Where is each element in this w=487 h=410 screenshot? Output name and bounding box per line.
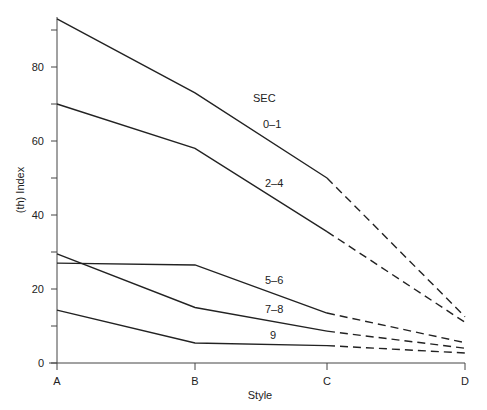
series-label: 9 [270,329,276,341]
line-chart: 020406080ABCD SEC0–12–45–67–89 Style (th… [0,0,487,410]
series-lines [57,19,465,353]
x-tick-label: D [461,375,469,387]
y-tick-label: 60 [32,135,44,147]
series-line-projected [327,178,465,317]
series-label: 7–8 [265,303,283,315]
series-line-solid [57,19,327,178]
x-tick-label: A [53,375,61,387]
y-tick-label: 40 [32,209,44,221]
series-label: 0–1 [263,118,281,130]
series-line-projected [327,346,465,353]
axes: 020406080ABCD [32,17,469,387]
x-axis-label: Style [248,389,272,401]
series-labels: SEC0–12–45–67–89 [253,92,283,341]
series-label: 5–6 [265,274,283,286]
series-line-projected [327,313,465,343]
y-tick-label: 0 [38,357,44,369]
series-label: 2–4 [265,177,283,189]
y-tick-label: 20 [32,283,44,295]
series-line-solid [57,104,327,232]
series-line-solid [57,310,327,346]
chart-container: 020406080ABCD SEC0–12–45–67–89 Style (th… [0,0,487,410]
series-line-projected [327,331,465,348]
series-line-projected [327,232,465,323]
y-tick-label: 80 [32,61,44,73]
series-line-solid [57,263,327,313]
y-axis-label: (th) Index [14,166,26,213]
legend-title: SEC [253,92,276,104]
x-tick-label: C [323,375,331,387]
x-tick-label: B [191,375,198,387]
